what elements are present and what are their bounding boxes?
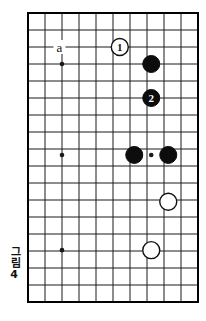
black-stone-disc[interactable] — [160, 146, 177, 163]
star-point-upper-left — [60, 62, 65, 67]
white-stone-disc[interactable] — [143, 242, 160, 259]
stone-move-number: 2 — [149, 92, 155, 104]
figure-caption: 그림 4 — [4, 246, 24, 281]
white-stone-disc[interactable] — [160, 193, 177, 210]
white-stone-lower-center[interactable] — [143, 242, 160, 259]
black-stone-move-2[interactable]: 2 — [143, 90, 160, 107]
star-point-lower-left — [60, 248, 65, 253]
go-diagram-figure: 12a 그림 4 — [0, 0, 206, 321]
board-markers: a — [53, 40, 65, 55]
star-point-middle-center — [149, 153, 154, 158]
black-stone-center-left[interactable] — [126, 146, 143, 163]
black-stone-disc[interactable] — [143, 56, 160, 73]
figure-caption-word: 그림 — [8, 246, 20, 268]
black-stone-disc[interactable] — [126, 146, 143, 163]
black-stone-center-right[interactable] — [160, 146, 177, 163]
figure-caption-number: 4 — [4, 269, 24, 281]
go-board[interactable]: 12a — [0, 0, 206, 321]
white-stone-lower-right[interactable] — [160, 193, 177, 210]
black-stone-plain-upper[interactable] — [143, 56, 160, 73]
star-point-middle-left — [60, 153, 65, 158]
white-stone-move-1[interactable]: 1 — [111, 39, 128, 56]
stone-move-number: 1 — [117, 41, 123, 53]
point-label-a: a — [57, 40, 63, 55]
